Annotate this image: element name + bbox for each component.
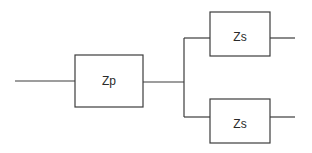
block-zp: Zp [75,55,143,107]
block-zp-label: Zp [102,74,116,88]
block-zs-top-label: Zs [233,30,246,44]
block-zs-top: Zs [210,12,270,56]
block-zs-bottom: Zs [210,99,270,143]
diagram-canvas: Zp Zs Zs [0,0,312,153]
block-zs-bottom-label: Zs [233,117,246,131]
